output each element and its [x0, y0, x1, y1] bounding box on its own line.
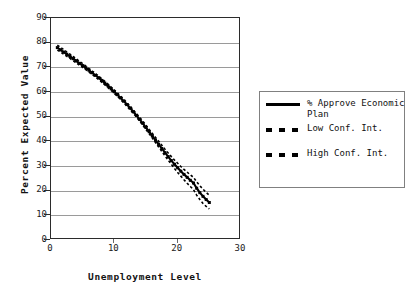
data-point-marker	[208, 201, 211, 204]
y-tick-mark	[44, 239, 50, 240]
series-line-high-conf-int	[57, 45, 209, 195]
legend-item-label: High Conf. Int.	[307, 148, 407, 159]
data-point-marker	[157, 143, 160, 146]
series-layer	[51, 18, 241, 240]
data-point-marker	[103, 82, 106, 85]
legend-solid-line-icon	[266, 103, 300, 106]
legend-dashed-line-icon	[266, 153, 300, 157]
data-point-marker	[100, 79, 103, 82]
data-point-marker	[81, 64, 84, 67]
plot-area	[50, 17, 240, 239]
data-point-marker	[56, 46, 59, 49]
x-tick-label: 20	[162, 244, 192, 253]
data-point-marker	[132, 110, 135, 113]
series-line-low-conf-int	[57, 50, 209, 209]
data-point-marker	[91, 71, 94, 74]
data-point-marker	[198, 191, 201, 194]
data-point-marker	[126, 103, 129, 106]
data-point-marker	[186, 176, 189, 179]
data-point-marker	[97, 76, 100, 79]
data-point-marker	[129, 107, 132, 110]
x-axis-title: Unemployment Level	[50, 271, 240, 282]
chart-legend: % Approve Economic PlanLow Conf. Int.Hig…	[259, 91, 405, 188]
data-point-marker	[192, 182, 195, 185]
data-point-marker	[69, 55, 72, 58]
legend-item-label: Low Conf. Int.	[307, 123, 407, 134]
data-point-marker	[110, 87, 113, 90]
data-point-marker	[179, 170, 182, 173]
x-tick-mark	[177, 239, 178, 243]
data-point-marker	[173, 163, 176, 166]
data-point-marker	[94, 74, 97, 77]
x-tick-label: 0	[35, 244, 65, 253]
data-point-marker	[141, 122, 144, 125]
data-point-marker	[59, 48, 62, 51]
data-point-marker	[160, 147, 163, 150]
data-point-marker	[75, 59, 78, 62]
data-point-marker	[154, 139, 157, 142]
data-point-marker	[84, 66, 87, 69]
data-point-marker	[107, 84, 110, 87]
data-point-marker	[122, 100, 125, 103]
data-point-marker	[62, 51, 65, 54]
data-point-marker	[164, 151, 167, 154]
data-point-marker	[183, 173, 186, 176]
data-point-marker	[119, 96, 122, 99]
data-point-marker	[176, 166, 179, 169]
data-point-marker	[138, 118, 141, 121]
x-tick-label: 10	[98, 244, 128, 253]
data-point-marker	[151, 134, 154, 137]
data-point-marker	[135, 114, 138, 117]
data-point-marker	[116, 93, 119, 96]
data-point-marker	[145, 126, 148, 129]
data-point-marker	[78, 62, 81, 65]
data-point-marker	[65, 53, 68, 56]
data-point-marker	[148, 130, 151, 133]
legend-item-label: % Approve Economic Plan	[307, 98, 407, 120]
series-line-approve-economic-plan	[57, 48, 209, 203]
y-axis-title: Percent Expected Value	[19, 30, 30, 220]
data-point-marker	[170, 159, 173, 162]
data-point-marker	[167, 155, 170, 158]
data-point-marker	[88, 69, 91, 72]
x-tick-label: 30	[225, 244, 255, 253]
data-point-marker	[205, 198, 208, 201]
legend-dashed-line-icon	[266, 128, 300, 132]
series-markers-approve-economic-plan	[56, 46, 211, 204]
data-point-marker	[202, 195, 205, 198]
x-tick-mark	[113, 239, 114, 243]
data-point-marker	[72, 57, 75, 60]
data-point-marker	[195, 187, 198, 190]
data-point-marker	[189, 179, 192, 182]
chart-figure: 0102030405060708090 0102030 Unemployment…	[0, 0, 415, 298]
data-point-marker	[113, 90, 116, 93]
